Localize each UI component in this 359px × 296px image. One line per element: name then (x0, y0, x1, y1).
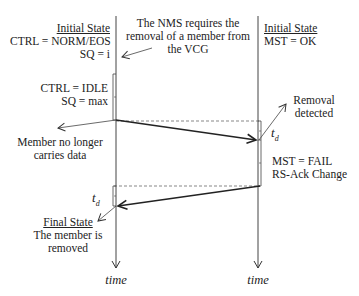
no-data-label-line2: carries data (10, 149, 110, 162)
signal-arrow-to-right (116, 120, 256, 140)
final-state-line1: The member is (30, 229, 106, 242)
right-time-label: time (238, 274, 278, 287)
right-initial-state-heading: Initial State (264, 22, 317, 35)
final-state-line2: removed (30, 242, 106, 255)
left-initial-state-heading: Initial State (40, 22, 110, 35)
final-state-arrow (98, 206, 116, 221)
right-rs-ack-change: RS-Ack Change (272, 168, 347, 181)
left-sq-i: SQ = i (40, 48, 110, 61)
nms-note-line2: removal of a member from (120, 30, 256, 43)
no-data-label-line1: Member no longer (10, 136, 110, 149)
nms-note-line1: The NMS requires the (120, 17, 256, 30)
removal-detected-line1: Removal (284, 94, 344, 107)
left-ctrl-norm-eos: CTRL = NORM/EOS (10, 35, 110, 48)
nms-note-line3: the VCG (120, 43, 256, 56)
no-data-arrow (58, 120, 116, 128)
final-state-heading: Final State (36, 216, 100, 229)
left-sq-max: SQ = max (20, 95, 108, 108)
right-mst-fail: MST = FAIL (272, 155, 332, 168)
left-delay-label: td (92, 191, 100, 210)
removal-detected-line2: detected (284, 107, 344, 120)
vcg-member-removal-diagram: Initial State CTRL = NORM/EOS SQ = i The… (0, 0, 359, 296)
right-mst-ok: MST = OK (264, 35, 316, 48)
left-ctrl-idle: CTRL = IDLE (20, 82, 108, 95)
signal-arrow-to-left (118, 186, 260, 206)
right-delay-label: td (271, 126, 279, 145)
left-time-label: time (96, 274, 136, 287)
